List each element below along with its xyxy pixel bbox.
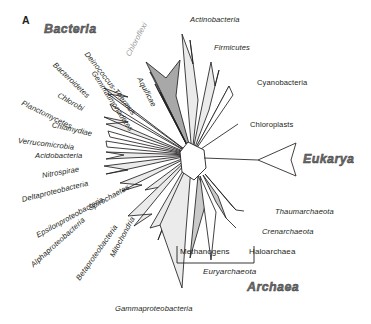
wedge-eukarya bbox=[258, 143, 296, 176]
taxon-label-actinobacteria: Actinobacteria bbox=[190, 16, 240, 24]
branch-eukarya bbox=[204, 158, 258, 160]
taxon-label-cyanobacteria: Cyanobacteria bbox=[257, 79, 307, 87]
bracket-label-methanogens: Methanogens bbox=[180, 248, 230, 256]
taxon-label-gammaproteobacteria: Gammaproteobacteria bbox=[115, 305, 192, 313]
domain-label-bacteria: Bacteria bbox=[44, 22, 97, 36]
leader-crenarchaeota bbox=[226, 218, 236, 228]
taxon-label-acidobacteria: Acidobacteria bbox=[35, 152, 82, 160]
taxon-label-crenarchaeota: Crenarchaeota bbox=[262, 228, 314, 236]
domain-label-archaea: Archaea bbox=[247, 280, 299, 294]
domain-label-eukarya: Eukarya bbox=[303, 152, 354, 166]
phylogenetic-tree-figure: A Bacteria Eukarya Archaea Chloroflexi A… bbox=[0, 0, 371, 324]
leader-thaumarchaeota bbox=[236, 210, 244, 211]
taxon-label-firmicutes: Firmicutes bbox=[214, 44, 250, 52]
bracket-label-euryarchaeota: Euryarchaeota bbox=[203, 268, 256, 276]
taxon-label-chloroplasts: Chloroplasts bbox=[250, 121, 293, 129]
bracket-label-haloarchaea: Haloarchaea bbox=[249, 248, 295, 256]
taxon-label-thaumarchaeota: Thaumarchaeota bbox=[275, 208, 334, 216]
panel-letter: A bbox=[22, 14, 30, 26]
